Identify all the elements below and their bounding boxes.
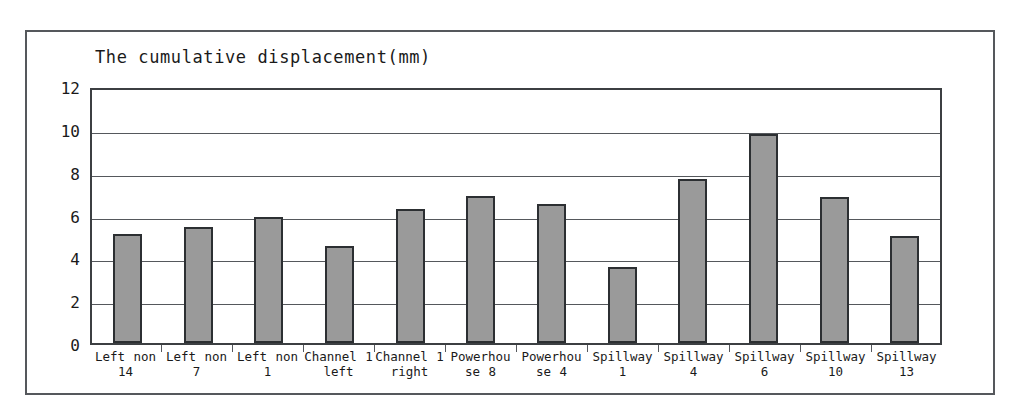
- x-axis-label-line: se 8: [446, 364, 515, 379]
- chart-figure: The cumulative displacement(mm) 12108642…: [0, 0, 1014, 420]
- x-axis-label: Left non1: [232, 349, 303, 379]
- plot-area: [90, 88, 942, 345]
- bar[interactable]: [184, 227, 213, 343]
- y-axis-tick-label: 2: [70, 293, 80, 312]
- x-axis-label: Spillway 1: [587, 349, 658, 379]
- x-axis-label: Left non7: [161, 349, 232, 379]
- x-axis-label: Left non14: [90, 349, 161, 379]
- bar[interactable]: [466, 196, 495, 343]
- y-axis-tick-label: 0: [70, 336, 80, 355]
- bar[interactable]: [396, 209, 425, 343]
- y-axis-tick-label: 6: [70, 207, 80, 226]
- y-axis-tick-label: 10: [61, 121, 80, 140]
- x-axis-label-line: right: [375, 364, 444, 379]
- x-axis-label-line: Left non: [162, 349, 231, 364]
- bar-slot: [163, 90, 234, 343]
- x-axis-label-line: left: [304, 364, 373, 379]
- x-axis-label: Spillway 6: [729, 349, 800, 379]
- x-axis-label-line: 7: [162, 364, 231, 379]
- bar-slot: [445, 90, 516, 343]
- x-axis-label-line: Channel 1: [375, 349, 444, 364]
- x-axis-label-line: Spillway 6: [730, 349, 799, 379]
- x-axis-label-line: Spillway 10: [801, 349, 870, 379]
- x-axis-label-line: Spillway 4: [659, 349, 728, 379]
- bar[interactable]: [608, 267, 637, 343]
- bar-slot: [728, 90, 799, 343]
- bar-slot: [375, 90, 446, 343]
- x-axis-label-line: Spillway 1: [588, 349, 657, 379]
- x-axis-label-line: se 4: [517, 364, 586, 379]
- x-axis-label: Powerhouse 8: [445, 349, 516, 379]
- bar-slot: [92, 90, 163, 343]
- y-axis-tick-label: 8: [70, 164, 80, 183]
- x-axis-label-line: Powerhou: [446, 349, 515, 364]
- x-axis-label-line: 1: [233, 364, 302, 379]
- bar[interactable]: [537, 204, 566, 343]
- x-axis-label-line: Powerhou: [517, 349, 586, 364]
- bar-slot: [233, 90, 304, 343]
- x-axis-label-line: Left non: [91, 349, 160, 364]
- bars-layer: [92, 90, 940, 343]
- x-axis-label: Channel 1left: [303, 349, 374, 379]
- bar-slot: [304, 90, 375, 343]
- y-axis: 121086420: [36, 88, 80, 345]
- bar-slot: [869, 90, 940, 343]
- bar[interactable]: [678, 179, 707, 343]
- y-axis-tick-label: 12: [61, 79, 80, 98]
- y-axis-tick-label: 4: [70, 250, 80, 269]
- bar[interactable]: [749, 134, 778, 343]
- bar[interactable]: [254, 217, 283, 343]
- x-axis-label-line: Channel 1: [304, 349, 373, 364]
- x-axis: Left non14Left non7Left non1Channel 1lef…: [90, 349, 942, 379]
- bar[interactable]: [113, 234, 142, 343]
- x-axis-label: Spillway 10: [800, 349, 871, 379]
- bar-slot: [657, 90, 728, 343]
- bar-slot: [587, 90, 658, 343]
- x-axis-label-line: Spillway 13: [872, 349, 941, 379]
- x-axis-label: Channel 1right: [374, 349, 445, 379]
- x-axis-label: Powerhouse 4: [516, 349, 587, 379]
- x-axis-label: Spillway 13: [871, 349, 942, 379]
- bar-slot: [799, 90, 870, 343]
- x-axis-label-line: 14: [91, 364, 160, 379]
- bar[interactable]: [325, 246, 354, 343]
- bar[interactable]: [890, 236, 919, 343]
- bar[interactable]: [820, 197, 849, 343]
- chart-title: The cumulative displacement(mm): [95, 47, 431, 67]
- bar-slot: [516, 90, 587, 343]
- x-axis-label-line: Left non: [233, 349, 302, 364]
- x-axis-label: Spillway 4: [658, 349, 729, 379]
